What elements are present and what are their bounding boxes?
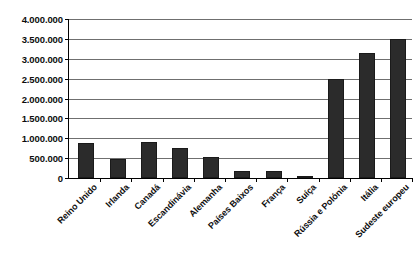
x-axis-label: Irlanda	[103, 182, 130, 209]
y-axis-label: 3.000.000	[22, 53, 63, 64]
x-axis-label-text: Suíça	[294, 182, 318, 206]
x-axis-label-text: Reino Unido	[56, 182, 100, 226]
bar	[390, 39, 406, 178]
x-axis-label-text: Itália	[359, 182, 380, 203]
bar-chart: 4.000.000 3.500.000 3.000.000 2.500.000 …	[0, 0, 415, 258]
y-axis-label: 0	[58, 173, 63, 184]
y-tick-mark	[65, 178, 69, 179]
x-axis-label: França	[259, 182, 287, 210]
y-axis-label: 2.000.000	[22, 93, 63, 104]
y-axis-label: 1.500.000	[22, 113, 63, 124]
bar	[172, 148, 188, 178]
x-axis-label: Canadá	[132, 182, 162, 212]
bar	[266, 171, 282, 178]
x-axis-label: Reino Unido	[56, 182, 100, 226]
y-axis-label: 500.000	[29, 153, 63, 164]
bar	[328, 79, 344, 178]
x-axis-label-text: Irlanda	[103, 182, 130, 209]
plot-area: 4.000.000 3.500.000 3.000.000 2.500.000 …	[68, 19, 412, 179]
bar	[297, 176, 313, 178]
x-axis-label: Suíça	[294, 182, 318, 206]
bar	[234, 171, 250, 178]
x-axis-label: Itália	[359, 182, 380, 203]
y-axis-label: 2.500.000	[22, 73, 63, 84]
x-axis-labels: Reino Unido Irlanda Canadá Escandinávia …	[68, 182, 411, 256]
x-axis-label-text: Canadá	[132, 182, 162, 212]
bar	[359, 53, 375, 178]
bar	[78, 143, 94, 178]
y-axis-label: 3.500.000	[22, 33, 63, 44]
bar	[141, 142, 157, 178]
x-axis-label-text: França	[259, 182, 287, 210]
x-tick-mark	[412, 178, 413, 182]
bars-layer	[69, 19, 412, 178]
y-axis-label: 1.000.000	[22, 133, 63, 144]
y-axis-label: 4.000.000	[22, 14, 63, 25]
bar	[203, 157, 219, 178]
bar	[110, 159, 126, 178]
